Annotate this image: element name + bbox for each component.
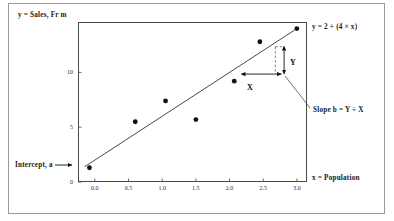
y-tick-label: 0 bbox=[57, 179, 73, 185]
run-label: X bbox=[247, 83, 253, 92]
y-axis-title: y = Sales, Fr m bbox=[18, 11, 67, 19]
plot-area bbox=[78, 22, 307, 182]
x-tick-label: 0.5 bbox=[125, 185, 133, 191]
x-tick-label: 1.5 bbox=[192, 185, 200, 191]
x-tick-label: 2.5 bbox=[259, 185, 267, 191]
x-tick-label: 2.0 bbox=[226, 185, 234, 191]
x-axis-title: x = Population bbox=[312, 174, 360, 182]
intercept-label: Intercept, a bbox=[15, 161, 53, 169]
rise-label: Y bbox=[290, 58, 296, 67]
figure-root: y = Sales, Fr m x = Population y = 2 + (… bbox=[0, 0, 394, 221]
x-tick-label: 3.0 bbox=[293, 185, 301, 191]
x-tick-label: 0.0 bbox=[91, 185, 99, 191]
y-tick-label: 5 bbox=[57, 124, 73, 130]
x-tick-label: 1.0 bbox=[158, 185, 166, 191]
slope-formula-label: Slope b = Y ÷ X bbox=[313, 106, 364, 114]
y-tick-label: 10 bbox=[57, 69, 73, 75]
regression-equation-label: y = 2 + (4 × x) bbox=[312, 23, 357, 31]
